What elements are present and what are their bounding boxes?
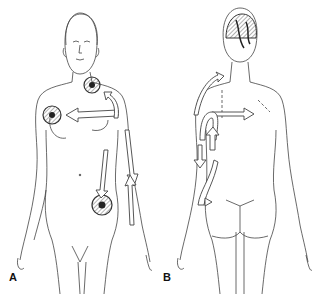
lesion-groin xyxy=(92,195,112,215)
lesion-scalp xyxy=(226,14,256,48)
drainage-arrows-back xyxy=(194,72,254,206)
panel-label-a: A xyxy=(9,271,17,283)
panel-label-b: B xyxy=(163,271,171,283)
lesion-breast xyxy=(43,106,61,124)
lesion-neck xyxy=(84,77,100,93)
lymphatic-diagram xyxy=(0,0,315,294)
